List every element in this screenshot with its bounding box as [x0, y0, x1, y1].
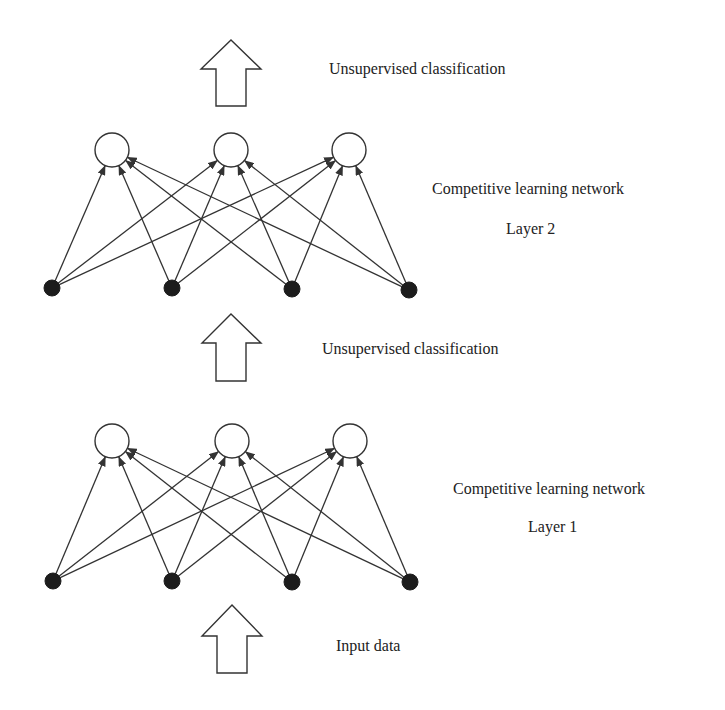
flow-arrow-bottom-icon — [202, 605, 262, 673]
connection-arrow — [295, 457, 343, 574]
layer1-network-label: Competitive learning network — [453, 480, 645, 498]
layer1-name-label: Layer 1 — [528, 518, 577, 536]
layer-2-network — [44, 133, 417, 298]
input-neuron-4 — [402, 574, 418, 590]
connection-arrow — [56, 457, 105, 573]
flow-arrow-top-icon — [201, 40, 261, 106]
connection-arrow — [246, 452, 404, 577]
output-neuron-3 — [333, 424, 367, 458]
connection-arrow — [357, 457, 407, 574]
input-neuron-3 — [284, 574, 300, 590]
output-neuron-2 — [215, 424, 249, 458]
connection-arrow — [119, 166, 169, 281]
bottom-arrow-label: Input data — [336, 637, 400, 655]
connection-arrow — [356, 166, 406, 283]
output-neuron-1 — [95, 133, 129, 167]
connection-arrow — [239, 457, 289, 574]
input-neuron-2 — [164, 573, 180, 589]
connection-arrow — [126, 452, 286, 577]
input-neuron-4 — [401, 282, 417, 298]
connection-arrow — [295, 166, 342, 281]
connection-arrow — [238, 166, 289, 282]
connection-arrow — [178, 452, 336, 576]
middle-arrow-label: Unsupervised classification — [322, 340, 498, 358]
input-neuron-1 — [45, 573, 61, 589]
output-neuron-3 — [332, 133, 366, 167]
connection-arrow — [245, 161, 403, 285]
layer2-network-label: Competitive learning network — [432, 180, 624, 198]
top-arrow-label: Unsupervised classification — [329, 60, 505, 78]
layer2-name-label: Layer 2 — [506, 220, 555, 238]
layer-1-network — [45, 424, 418, 590]
connections — [55, 157, 406, 286]
flow-arrow-middle-icon — [202, 314, 261, 381]
connection-arrow — [178, 161, 335, 283]
input-neuron-3 — [284, 281, 300, 297]
connection-arrow — [119, 457, 169, 573]
output-neuron-2 — [214, 133, 248, 167]
input-neuron-2 — [164, 280, 180, 296]
connection-arrow — [126, 161, 286, 284]
output-neuron-1 — [95, 424, 129, 458]
connections — [56, 449, 407, 579]
connection-arrow — [55, 166, 105, 281]
input-neuron-1 — [44, 280, 60, 296]
